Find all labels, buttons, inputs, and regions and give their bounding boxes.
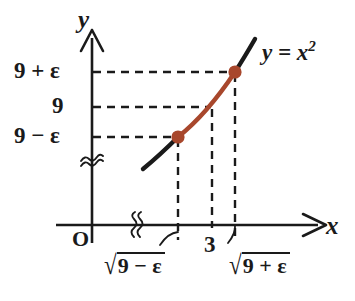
tick-leader-arc-right <box>228 225 235 243</box>
y-tick-label-lower: 9 − ε <box>14 124 60 147</box>
origin-label: O <box>72 228 89 250</box>
y-axis-name-label: y <box>78 7 89 32</box>
marked-points-group <box>171 65 241 143</box>
marked-point-lower <box>171 130 184 143</box>
radical-left: √9 − ε <box>104 252 165 277</box>
x-axis-name-label: x <box>326 213 339 238</box>
y-tick-label-middle: 9 <box>52 94 64 117</box>
curve-segment-highlighted <box>178 72 235 137</box>
x-tick-label-three: 3 <box>204 233 216 256</box>
curve-equation-label: y = x2 <box>262 38 316 64</box>
tick-leader-arc-left <box>160 232 178 245</box>
radicand-left: 9 − ε <box>117 252 165 277</box>
x-tick-label-left: √9 − ε <box>104 252 165 277</box>
guide-lines-group <box>93 72 235 240</box>
x-tick-label-right: √9 + ε <box>229 252 290 277</box>
radical-right: √9 + ε <box>229 252 290 277</box>
curve-equation-exponent: 2 <box>308 37 316 54</box>
y-tick-label-upper: 9 + ε <box>14 59 60 82</box>
tick-leader-arcs <box>160 225 235 245</box>
radicand-right: 9 + ε <box>242 252 290 277</box>
marked-point-upper <box>228 65 241 78</box>
function-curve-group <box>143 39 255 169</box>
radical-sign-right: √ <box>229 252 242 279</box>
curve-equation-base: y = x <box>262 40 308 65</box>
math-diagram-figure: 9 + ε 9 9 − ε y x O y = x2 3 √9 − ε √9 +… <box>0 0 355 301</box>
curve-segment-lower-black <box>143 137 178 169</box>
radical-sign-left: √ <box>104 252 117 279</box>
